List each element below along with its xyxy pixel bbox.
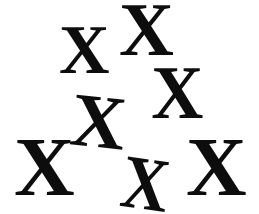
letter-x-glyph: X xyxy=(186,126,247,210)
letter-x-glyph: X xyxy=(67,81,130,162)
letter-x-glyph: X xyxy=(151,55,203,131)
image-canvas: XXXXXXX xyxy=(0,0,259,214)
letter-x-glyph: X xyxy=(14,126,75,210)
letter-x-glyph: X xyxy=(59,16,110,86)
letter-x-glyph: X xyxy=(117,143,174,214)
